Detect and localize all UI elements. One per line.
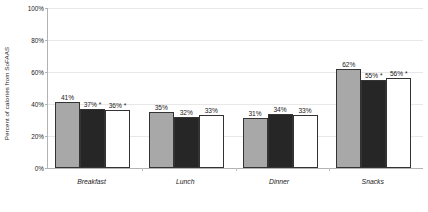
bar[interactable]: 37% * [80,109,105,168]
bar-group: 35%32%33% [149,8,224,168]
bar[interactable]: 33% [293,115,318,168]
bar-value-label: 33% [298,107,311,115]
y-axis-tick-mark [45,8,48,9]
x-axis-category-label: Dinner [242,177,317,186]
y-axis-tick-mark [45,104,48,105]
x-axis-category-label: Lunch [148,177,223,186]
bar[interactable]: 35% [149,112,174,168]
bar-value-label: 36% * [109,102,127,110]
plot-area: 41%37% *36% *35%32%33%31%34%33%62%55% *5… [47,8,423,168]
bar-group: 41%37% *36% * [55,8,130,168]
x-axis-group-separator [236,168,237,171]
bar-value-label: 56% * [390,70,408,78]
y-axis-tick-mark [45,136,48,137]
bar[interactable]: 41% [55,102,80,168]
y-axis-tick-label: 40% [16,101,44,108]
y-axis-tick-mark [45,40,48,41]
bar-value-label: 35% [155,104,168,112]
bar[interactable]: 55% * [361,80,386,168]
bar-value-label: 32% [180,109,193,117]
y-axis-title-text: Percent of calories from SoFAAS [4,46,11,140]
x-axis-group-separator [329,168,330,171]
bar-value-label: 33% [205,107,218,115]
bar-value-label: 55% * [365,72,383,80]
bar-value-label: 37% * [84,101,102,109]
bar-chart: Percent of calories from SoFAAS 100%80%6… [0,0,428,212]
bar-group: 62%55% *56% * [336,8,411,168]
bar[interactable]: 36% * [105,110,130,168]
bar-value-label: 62% [342,61,355,69]
bar[interactable]: 62% [336,69,361,168]
y-axis-tick-mark [45,72,48,73]
bar[interactable]: 34% [268,114,293,168]
bar-value-label: 34% [273,106,286,114]
x-axis-group-separator [142,168,143,171]
y-axis-tick-labels: 100%80%60%40%20%0% [16,8,44,168]
x-axis-category-label: Snacks [335,177,410,186]
x-axis-category-labels: BreakfastLunchDinnerSnacks [47,177,422,193]
bar[interactable]: 33% [199,115,224,168]
y-axis-tick-label: 20% [16,133,44,140]
bar-group: 31%34%33% [243,8,318,168]
y-axis-tick-label: 0% [16,165,44,172]
y-axis-title: Percent of calories from SoFAAS [0,0,14,186]
y-axis-tick-label: 100% [16,5,44,12]
y-axis-tick-label: 60% [16,69,44,76]
bar[interactable]: 31% [243,118,268,168]
y-axis-tick-mark [45,168,48,169]
y-axis-tick-label: 80% [16,37,44,44]
bar-value-label: 31% [248,110,261,118]
bar-value-label: 41% [61,94,74,102]
bar[interactable]: 56% * [386,78,411,168]
bar[interactable]: 32% [174,117,199,168]
x-axis-category-label: Breakfast [54,177,129,186]
